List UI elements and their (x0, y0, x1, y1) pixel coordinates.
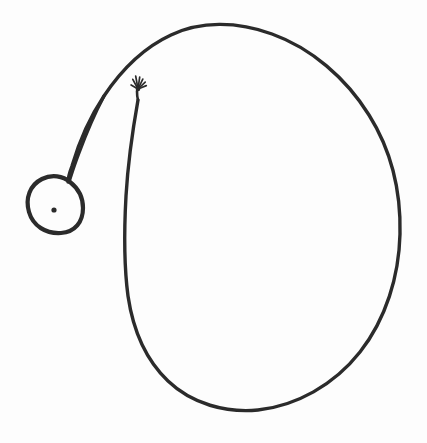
starburst-stem-stroke (137, 91, 138, 100)
starburst-core (136, 87, 141, 92)
circle-center-dot (51, 207, 56, 212)
hand-drawn-sketch (0, 0, 427, 443)
sketch-canvas (0, 0, 427, 443)
canvas-background (0, 0, 427, 443)
